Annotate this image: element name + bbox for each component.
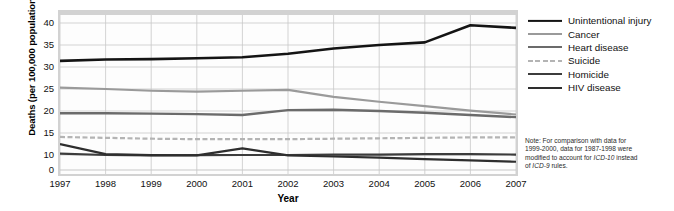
legend-swatch-heart-disease [528, 41, 562, 53]
x-tick-label: 2004 [357, 178, 401, 189]
note-line-1: Note: For comparison with data for [525, 137, 674, 145]
x-tick-label: 2006 [448, 178, 492, 189]
y-tick-label: 10 [32, 150, 54, 160]
plot-inner [60, 15, 516, 174]
note-line-2: 1999-2000, data for 1987-1998 were [525, 145, 674, 153]
y-tick-label: 40 [32, 18, 54, 28]
y-tick-label: 0 [32, 165, 54, 175]
x-axis-tick-labels: 1997199819992000200120022003200420052006… [58, 178, 518, 192]
x-tick-label: 2007 [494, 178, 538, 189]
chart-legend: Unintentional injuryCancerHeart diseaseS… [528, 14, 674, 94]
legend-label-suicide: Suicide [568, 55, 600, 66]
y-tick-label: 35 [32, 40, 54, 50]
legend-label-heart-disease: Heart disease [568, 42, 628, 53]
y-tick-label: 30 [32, 62, 54, 72]
chart-figure: Deaths (per 100,000 population) 01015202… [0, 0, 674, 211]
x-axis-title: Year [58, 193, 518, 204]
legend-item-hiv-disease[interactable]: HIV disease [528, 81, 674, 94]
chart-lines-svg [60, 15, 516, 174]
legend-label-unintentional-injury: Unintentional injury [568, 15, 651, 26]
legend-swatch-hiv-disease [528, 82, 562, 94]
legend-swatch-unintentional-injury [528, 15, 562, 27]
note-line-3: modified to account for ICD-10 instead [525, 154, 674, 162]
x-tick-label: 1999 [129, 178, 173, 189]
x-tick-label: 2005 [403, 178, 447, 189]
note-line-4: of ICD-9 rules. [525, 162, 674, 170]
x-tick-label: 2001 [220, 178, 264, 189]
y-tick-label: 20 [32, 106, 54, 116]
legend-label-hiv-disease: HIV disease [568, 82, 621, 93]
plot-area [58, 10, 518, 176]
x-tick-label: 2003 [312, 178, 356, 189]
x-tick-label: 1997 [38, 178, 82, 189]
legend-swatch-homicide [528, 68, 562, 80]
legend-item-heart-disease[interactable]: Heart disease [528, 41, 674, 54]
legend-item-suicide[interactable]: Suicide [528, 54, 674, 67]
legend-label-homicide: Homicide [568, 69, 609, 80]
legend-swatch-suicide [528, 55, 562, 67]
legend-label-cancer: Cancer [568, 29, 600, 40]
x-tick-label: 1998 [84, 178, 128, 189]
legend-item-homicide[interactable]: Homicide [528, 68, 674, 81]
y-tick-label: 15 [32, 128, 54, 138]
legend-item-cancer[interactable]: Cancer [528, 27, 674, 40]
legend-swatch-cancer [528, 28, 562, 40]
legend-item-unintentional-injury[interactable]: Unintentional injury [528, 14, 674, 27]
chart-note: Note: For comparison with data for 1999-… [525, 137, 674, 171]
x-tick-label: 2000 [175, 178, 219, 189]
y-tick-label: 25 [32, 84, 54, 94]
x-tick-label: 2002 [266, 178, 310, 189]
